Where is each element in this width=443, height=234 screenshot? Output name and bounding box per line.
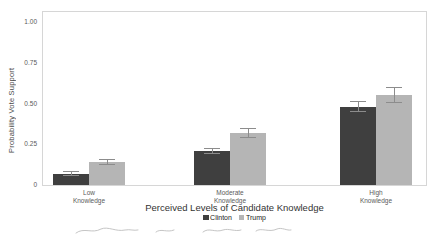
y-tick-label: 0.25: [0, 140, 37, 148]
y-tick-label: 1.00: [0, 18, 37, 26]
error-bar-stem: [394, 88, 395, 102]
bar-clinton-1: [194, 151, 230, 185]
legend: ClintonTrump: [42, 214, 427, 221]
legend-label-trump: Trump: [246, 214, 266, 221]
plot-area: [42, 11, 427, 186]
error-bar-clinton-1: [204, 148, 220, 155]
legend-swatch-trump: [239, 215, 245, 221]
chart-canvas: Probability Vote Support 00.250.500.751.…: [0, 0, 443, 234]
bar-clinton-2: [340, 107, 376, 185]
y-tick-label: 0.75: [0, 59, 37, 67]
bar-trump-0: [89, 162, 125, 185]
x-axis-title: Perceived Levels of Candidate Knowledge: [42, 202, 427, 213]
error-bar-stem: [71, 172, 72, 175]
error-bar-stem: [248, 129, 249, 137]
error-bar-clinton-0: [63, 171, 79, 176]
bar-trump-2: [376, 95, 412, 185]
handwritten-marks: [28, 225, 318, 234]
error-bar-trump-2: [386, 87, 402, 103]
error-bar-stem: [107, 160, 108, 165]
y-tick-label: 0.50: [0, 100, 37, 108]
error-bar-trump-0: [99, 159, 115, 166]
bar-trump-1: [230, 133, 266, 185]
legend-item-trump: Trump: [239, 214, 266, 221]
y-tick-label: 0: [0, 181, 37, 189]
error-bar-stem: [212, 149, 213, 154]
error-bar-stem: [358, 102, 359, 111]
legend-swatch-clinton: [203, 215, 209, 221]
error-bar-clinton-2: [350, 101, 366, 112]
legend-label-clinton: Clinton: [210, 214, 232, 221]
legend-item-clinton: Clinton: [203, 214, 232, 221]
error-bar-trump-1: [240, 128, 256, 138]
